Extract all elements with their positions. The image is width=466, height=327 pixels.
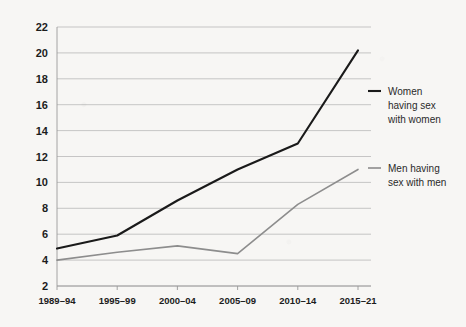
- y-tick-label-12: 12: [36, 151, 48, 163]
- x-tick-label-4: 2010–14: [279, 295, 317, 306]
- x-tick-label-0: 1989–94: [39, 295, 77, 306]
- chart-legend: Womenhaving sexwith womenMen havingsex w…: [368, 86, 446, 188]
- series-line-women: [57, 50, 358, 248]
- y-tick-label-4: 4: [42, 254, 49, 266]
- series-line-men: [57, 169, 358, 260]
- legend-label-women-line-2: with women: [387, 114, 441, 125]
- y-tick-label-14: 14: [36, 125, 49, 137]
- y-tick-label-20: 20: [36, 47, 48, 59]
- y-tick-label-18: 18: [36, 73, 48, 85]
- legend-label-men-line-1: sex with men: [388, 177, 446, 188]
- y-axis-tick-labels: 246810121416182022: [36, 21, 49, 292]
- legend-label-women-line-0: Women: [388, 86, 422, 97]
- data-series-group: [57, 50, 358, 260]
- y-tick-label-2: 2: [42, 280, 48, 292]
- chart-canvas: 246810121416182022 1989–941995–992000–04…: [0, 0, 466, 327]
- x-tick-label-3: 2005–09: [219, 295, 256, 306]
- x-axis-tick-labels: 1989–941995–992000–042005–092010–142015–…: [39, 286, 378, 306]
- legend-label-men-line-0: Men having: [388, 163, 440, 174]
- y-tick-label-16: 16: [36, 99, 48, 111]
- line-chart-figure: 246810121416182022 1989–941995–992000–04…: [0, 0, 466, 327]
- x-tick-label-5: 2015–21: [340, 295, 378, 306]
- legend-label-women-line-1: having sex: [388, 100, 436, 111]
- y-tick-label-6: 6: [42, 228, 48, 240]
- x-tick-label-2: 2000–04: [159, 295, 197, 306]
- y-tick-label-8: 8: [42, 202, 48, 214]
- x-tick-label-1: 1995–99: [99, 295, 136, 306]
- y-tick-label-22: 22: [36, 21, 48, 33]
- y-tick-label-10: 10: [36, 176, 48, 188]
- gridlines-group: [57, 27, 371, 286]
